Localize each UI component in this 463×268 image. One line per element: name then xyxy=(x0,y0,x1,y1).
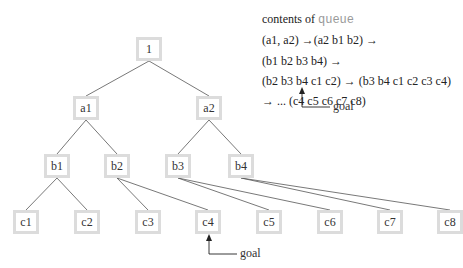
tree-node-b4: b4 xyxy=(228,154,254,178)
tree-node-c7: c7 xyxy=(377,210,403,234)
tree-node-c2: c2 xyxy=(74,210,100,234)
edge-b2-c4 xyxy=(117,178,208,210)
queue-line-4: → ... (c4 c5 c6 c7 c8) xyxy=(262,91,451,111)
edge-b4-c8 xyxy=(241,178,450,210)
queue-goal-label: goal xyxy=(333,99,354,114)
edge-b1-c2 xyxy=(57,178,87,210)
edge-a1-b1 xyxy=(57,120,86,154)
tree-node-c3: c3 xyxy=(135,210,161,234)
edge-b1-c1 xyxy=(26,178,57,210)
edge-b2-c3 xyxy=(117,178,148,210)
edge-b4-c7 xyxy=(241,178,390,210)
tree-goal-label: goal xyxy=(240,246,261,261)
queue-line-2: (b1 b2 b3 b4) → xyxy=(262,51,451,71)
tree-node-a2: a2 xyxy=(196,96,222,120)
tree-node-c4: c4 xyxy=(195,210,221,234)
tree-node-b3: b3 xyxy=(165,154,191,178)
tree-node-c8: c8 xyxy=(437,210,463,234)
queue-code-label: queue xyxy=(318,13,354,27)
queue-heading: contents of queue xyxy=(262,9,451,30)
tree-node-c5: c5 xyxy=(256,210,282,234)
edge-a2-b4 xyxy=(209,120,241,154)
edge-a2-b3 xyxy=(178,120,209,154)
tree-node-c1: c1 xyxy=(13,210,39,234)
tree-node-1: 1 xyxy=(136,37,162,61)
edge-1-a2 xyxy=(149,61,209,96)
queue-heading-prefix: contents of xyxy=(262,12,315,26)
queue-line-3: (b2 b3 b4 c1 c2) → (b3 b4 c1 c2 c3 c4) xyxy=(262,71,451,91)
tree-node-c6: c6 xyxy=(317,210,343,234)
queue-contents-panel: contents of queue (a1, a2) →(a2 b1 b2) →… xyxy=(262,9,451,111)
tree-goal-arrow xyxy=(206,234,237,254)
tree-node-b1: b1 xyxy=(44,154,70,178)
arrowhead-icon xyxy=(206,234,212,241)
tree-node-a1: a1 xyxy=(73,96,99,120)
edge-1-a1 xyxy=(86,61,149,96)
queue-line-1: (a1, a2) →(a2 b1 b2) → xyxy=(262,30,451,50)
edge-a1-b2 xyxy=(86,120,117,154)
tree-node-b2: b2 xyxy=(104,154,130,178)
edge-b3-c6 xyxy=(178,178,330,210)
